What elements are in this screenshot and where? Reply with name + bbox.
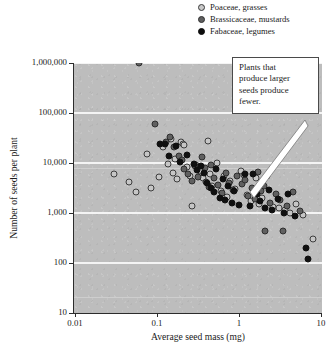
x-tick-mark (321, 313, 322, 317)
data-point (181, 141, 188, 148)
data-point (188, 202, 195, 209)
x-tick-mark (239, 313, 240, 317)
chart-legend: Poaceae, grasses Brassicaceae, mustards … (198, 1, 335, 37)
data-point (262, 228, 269, 235)
annotation-line-3: seeds produce (239, 85, 313, 96)
x-axis-title: Average seed mass (mg) (74, 331, 322, 343)
data-point (228, 200, 235, 207)
data-point (205, 137, 212, 144)
data-point (167, 134, 174, 141)
legend-marker-circle-black-icon (198, 28, 205, 35)
data-point (198, 154, 205, 161)
data-point (165, 153, 172, 160)
data-point (305, 256, 312, 263)
data-point (291, 213, 298, 220)
data-point (176, 158, 183, 165)
data-point (111, 171, 118, 178)
x-tick-label: 0.01 (67, 318, 82, 328)
data-point (164, 161, 171, 168)
annotation-line-4: fewer. (239, 96, 313, 107)
data-point (161, 141, 168, 148)
data-point (253, 191, 260, 198)
y-tick-mark (69, 113, 73, 114)
y-tick-label: 1,000 (47, 208, 67, 217)
data-point (241, 171, 248, 178)
data-point (302, 244, 309, 251)
y-tick-label: 100 (54, 258, 67, 267)
y-tick-label: 100,000 (38, 108, 67, 117)
data-point (184, 151, 191, 158)
y-tick-mark (69, 163, 73, 164)
data-point (275, 196, 282, 203)
data-point (234, 173, 241, 180)
legend-marker-circle-light-gray-icon (198, 4, 205, 11)
data-point (236, 201, 243, 208)
x-axis-line (73, 313, 322, 314)
annotation-line-2: produce larger (239, 73, 313, 84)
y-tick-label: 10 (58, 308, 67, 317)
y-tick-mark (69, 263, 73, 264)
data-point (220, 176, 227, 183)
data-point (135, 63, 142, 67)
y-axis-line (73, 63, 74, 314)
data-point (246, 203, 253, 210)
x-tick-label: 0.1 (152, 318, 163, 328)
data-point (143, 151, 150, 158)
data-point (268, 206, 275, 213)
annotation-line-1: Plants that (239, 62, 313, 73)
data-point (250, 170, 257, 177)
data-point (280, 210, 287, 217)
legend-label-poaceae: Poaceae, grasses (210, 2, 267, 12)
data-point (125, 178, 132, 185)
y-tick-mark (69, 313, 73, 314)
data-point (200, 169, 207, 176)
legend-item-poaceae: Poaceae, grasses (198, 1, 335, 13)
data-point (231, 188, 238, 195)
data-point (310, 236, 317, 243)
data-point (155, 174, 162, 181)
data-point (148, 184, 155, 191)
gridline-y-faint (74, 297, 322, 298)
data-point (267, 199, 274, 206)
data-point (215, 182, 222, 189)
x-tick-label: 10 (317, 318, 326, 328)
legend-item-fabaceae: Fabaceae, legumes (198, 25, 335, 37)
data-point (172, 142, 179, 149)
data-point (173, 175, 180, 182)
x-tick-mark (157, 313, 158, 317)
data-point (261, 205, 268, 212)
data-point (152, 121, 159, 128)
annotation-callout: Plants that produce larger seeds produce… (232, 57, 319, 114)
data-point (132, 189, 139, 196)
data-point (265, 187, 272, 194)
legend-marker-circle-medium-gray-icon (198, 16, 205, 23)
y-tick-mark (69, 213, 73, 214)
legend-label-brassicaceae: Brassicaceae, mustards (210, 14, 290, 24)
y-axis-title: Number of seeds per plant (7, 63, 21, 313)
x-tick-mark (75, 313, 76, 317)
legend-item-brassicaceae: Brassicaceae, mustards (198, 13, 335, 25)
data-point (264, 172, 271, 179)
y-tick-label: 1,000,000 (32, 58, 67, 67)
data-point (285, 190, 292, 197)
legend-label-fabaceae: Fabaceae, legumes (210, 26, 275, 36)
y-tick-label: 10,000 (43, 158, 67, 167)
y-tick-mark (69, 63, 73, 64)
data-point (212, 165, 219, 172)
x-tick-label: 1 (237, 318, 241, 328)
data-point (279, 228, 286, 235)
gridline-y (74, 262, 322, 263)
data-point (211, 175, 218, 182)
